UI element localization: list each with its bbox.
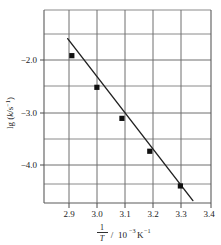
x-tick-label: 3.2 (147, 209, 158, 219)
y-tick-label: −3.0 (21, 108, 38, 118)
x-tick-label: 3.0 (91, 209, 103, 219)
x-axis-title-numerator: 1 (100, 223, 104, 232)
y-axis-title-unit-exponent: −1 (4, 100, 11, 107)
chart-svg: −2.0 −3.0 −4.0 2.9 3.0 3.1 3.2 3.3 3.4 1… (0, 0, 221, 245)
x-tick-label: 2.9 (63, 209, 75, 219)
chart-background (0, 0, 221, 245)
data-point (119, 116, 124, 121)
data-point (147, 149, 152, 154)
x-axis-title-base-exponent: −3 (129, 227, 136, 234)
x-axis-title-unit-exponent: −1 (144, 227, 151, 234)
x-tick-label: 3.4 (203, 209, 215, 219)
y-tick-label: −2.0 (21, 55, 38, 65)
data-point (94, 85, 99, 90)
arrhenius-plot-figure: −2.0 −3.0 −4.0 2.9 3.0 3.1 3.2 3.3 3.4 1… (0, 0, 221, 245)
x-tick-label: 3.3 (175, 209, 187, 219)
x-tick-label: 3.1 (119, 209, 130, 219)
y-tick-label: −4.0 (21, 160, 38, 170)
y-axis-title-suffix: ) (5, 97, 15, 100)
data-point (178, 183, 183, 188)
data-point (69, 53, 74, 58)
x-axis-title-base: 10 (118, 230, 128, 240)
x-axis-title-denominator: T (100, 234, 105, 243)
y-axis-title-prefix: lg ( (5, 117, 15, 129)
x-axis-title-unit: K (137, 230, 144, 240)
